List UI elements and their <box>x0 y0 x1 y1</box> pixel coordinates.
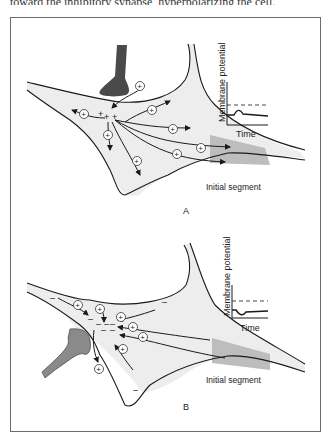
panel-b: – – ––– –– – – + + + + + + + <box>27 236 305 412</box>
initial-segment-label-b: Initial segment <box>206 375 261 385</box>
inset-x-label-b: Time <box>240 323 260 333</box>
svg-text:+: + <box>97 305 102 314</box>
svg-text:+: + <box>137 82 142 91</box>
initial-segment-label-a: Initial segment <box>206 182 261 192</box>
inset-x-label-a: Time <box>236 129 256 139</box>
svg-text:+: + <box>81 110 86 119</box>
svg-text:+: + <box>104 112 109 122</box>
svg-text:–: – <box>101 325 106 335</box>
svg-text:–: – <box>88 314 93 324</box>
svg-text:+: + <box>140 333 145 342</box>
svg-text:+: + <box>118 313 123 322</box>
inset-y-label-b: Membrane potential <box>222 236 232 316</box>
svg-text:–: – <box>133 385 138 395</box>
neuron-diagram: +++ + + + + + + + + Membran <box>0 0 328 440</box>
inhibitory-terminal <box>42 329 91 378</box>
svg-text:+: + <box>170 125 175 134</box>
svg-text:+: + <box>134 157 139 166</box>
svg-text:–: – <box>50 293 55 303</box>
svg-text:+: + <box>105 131 110 140</box>
svg-text:+: + <box>96 365 101 374</box>
svg-text:+: + <box>120 345 125 354</box>
svg-text:+: + <box>149 106 154 115</box>
svg-text:+: + <box>130 323 135 332</box>
svg-text:–: – <box>162 297 167 307</box>
svg-text:+: + <box>75 301 80 310</box>
excitatory-terminal <box>100 45 130 96</box>
panel-a: +++ + + + + + + + + Membran <box>27 42 305 216</box>
panel-label-a: A <box>183 206 189 216</box>
inset-y-label-a: Membrane potential <box>217 42 227 122</box>
svg-text:+: + <box>174 150 179 159</box>
panel-label-b: B <box>183 402 189 412</box>
cell-body-a <box>27 44 305 196</box>
svg-text:+: + <box>198 144 203 153</box>
svg-text:–: – <box>110 325 115 335</box>
